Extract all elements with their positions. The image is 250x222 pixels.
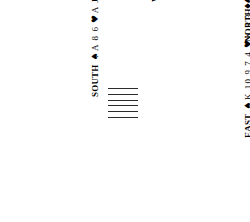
hand-south-hearts: ♥ A J 8 — [90, 0, 101, 23]
hand-east-label: EAST — [243, 110, 250, 138]
center-rule-line — [108, 88, 138, 89]
center-rule-line — [108, 94, 138, 95]
hand-east-spades: ♠ K 10 9 7 4 — [243, 48, 250, 110]
hand-east-diamonds: ♦ A 8 5 — [243, 0, 250, 10]
hand-south-hearts-cards: A J 8 — [90, 0, 101, 13]
center-rule-line — [108, 105, 138, 106]
diamond-icon: ♦ — [243, 0, 250, 10]
heart-icon: ♥ — [243, 39, 250, 49]
hand-east-hearts-cards: K 9 3 — [243, 13, 250, 39]
hand-east: EAST ♠ K 10 9 7 4 ♥ K 9 3 ♦ A 8 5 ♣ A 2 — [243, 0, 250, 138]
bridge-deal-diagram: WEST (D) ♠ Q 2 ♥ Q 10 2 ♦ K J 6 3 ♣ Q 7 … — [0, 0, 250, 222]
center-rule-line — [108, 117, 138, 118]
hand-west-label: WEST (D) — [150, 0, 161, 2]
hand-south: SOUTH ♠ A 8 6 ♥ A J 8 ♦ Q 10 9 ♣ K J 10 … — [90, 0, 101, 97]
hand-east-hearts: ♥ K 9 3 — [243, 10, 250, 48]
heart-icon: ♥ — [90, 13, 101, 23]
hand-east-spades-cards: K 10 9 7 4 — [243, 51, 250, 100]
center-rules-block — [108, 88, 138, 118]
hand-south-spades-cards: A 8 6 — [90, 26, 101, 51]
spade-icon: ♠ — [243, 100, 250, 110]
spade-icon: ♠ — [90, 51, 101, 61]
hand-west: WEST (D) ♠ Q 2 ♥ Q 10 2 ♦ K J 6 3 ♣ Q 7 … — [150, 0, 161, 2]
hand-south-spades: ♠ A 8 6 — [90, 23, 101, 61]
center-rule-line — [108, 111, 138, 112]
hand-south-label: SOUTH — [90, 60, 101, 97]
center-rule-line — [108, 100, 138, 101]
